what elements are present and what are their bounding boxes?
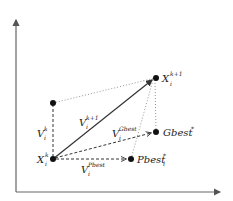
svg-text:*: *: [191, 125, 194, 132]
label-x-next: X k+1 i: [161, 70, 182, 87]
label-v-pbest: V Pbest i: [81, 161, 106, 177]
svg-text:X: X: [36, 154, 45, 165]
point-x-next: [153, 75, 159, 81]
label-x-current: X k i: [36, 151, 49, 167]
svg-text:i: i: [163, 160, 165, 167]
label-v-next: V k+1 i: [79, 114, 98, 130]
svg-text:*: *: [163, 152, 166, 159]
point-v-prev-tip: [50, 100, 56, 106]
pso-diagram: X k+1 i X k i Gbest * Pbest * i V k i V …: [0, 0, 233, 201]
point-x-current: [50, 156, 56, 162]
dotted-pbest-to-xnext: [131, 80, 153, 159]
svg-text:i: i: [88, 170, 90, 177]
svg-text:i: i: [119, 134, 121, 141]
vector-v-next: [53, 80, 152, 159]
svg-text:Pbest: Pbest: [87, 161, 106, 168]
point-pbest: [128, 156, 134, 162]
label-pbest: Pbest * i: [136, 152, 166, 167]
svg-text:k: k: [45, 151, 49, 158]
point-gbest: [153, 129, 159, 135]
svg-text:k+1: k+1: [170, 70, 182, 77]
dotted-gbest-to-xnext: [155, 80, 156, 132]
svg-text:i: i: [170, 80, 172, 87]
label-gbest: Gbest *: [163, 125, 194, 138]
label-v-gbest: V Gbest i: [112, 125, 137, 141]
svg-text:i: i: [44, 134, 46, 141]
svg-text:k+1: k+1: [86, 114, 98, 121]
svg-text:Gbest: Gbest: [163, 127, 193, 138]
svg-text:Gbest: Gbest: [119, 125, 137, 132]
svg-text:X: X: [161, 73, 170, 84]
svg-text:Pbest: Pbest: [136, 154, 166, 165]
svg-text:k: k: [44, 125, 48, 132]
label-v-k: V k i: [37, 125, 48, 141]
svg-text:i: i: [86, 123, 88, 130]
svg-text:i: i: [45, 160, 47, 167]
